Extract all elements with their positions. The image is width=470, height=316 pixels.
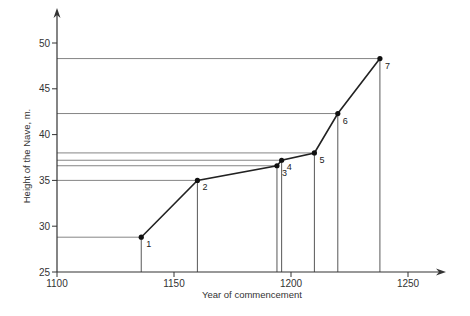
x-ticks: 1100115012001250 [46,272,419,289]
y-axis-label: Height of the Nave, m. [21,109,32,204]
data-point [312,150,317,155]
x-tick-label: 1250 [397,278,420,289]
y-tick-label: 25 [39,267,51,278]
data-point [195,178,200,183]
reference-lines [57,59,380,272]
data-point [139,235,144,240]
y-tick-label: 30 [39,221,51,232]
point-label: 5 [319,155,324,165]
y-tick-label: 45 [39,83,51,94]
data-point [377,56,382,61]
point-label: 6 [343,116,348,126]
data-point [274,163,279,168]
x-tick-label: 1150 [163,278,185,289]
point-label: 2 [202,182,207,192]
x-tick-label: 1100 [46,278,68,289]
y-axis [54,8,61,272]
point-label: 1 [146,239,151,249]
y-tick-label: 40 [39,129,51,140]
point-label: 7 [385,61,390,71]
line-chart: 253035404550 1100115012001250 1234567 Ye… [0,0,470,316]
y-tick-label: 50 [39,38,51,49]
data-point [335,111,340,116]
x-axis-label: Year of commencement [202,289,302,300]
point-label: 4 [287,162,292,172]
y-tick-label: 35 [39,175,51,186]
x-axis [57,269,446,276]
data-point [279,158,284,163]
x-tick-label: 1200 [280,278,303,289]
y-ticks: 253035404550 [39,38,57,278]
